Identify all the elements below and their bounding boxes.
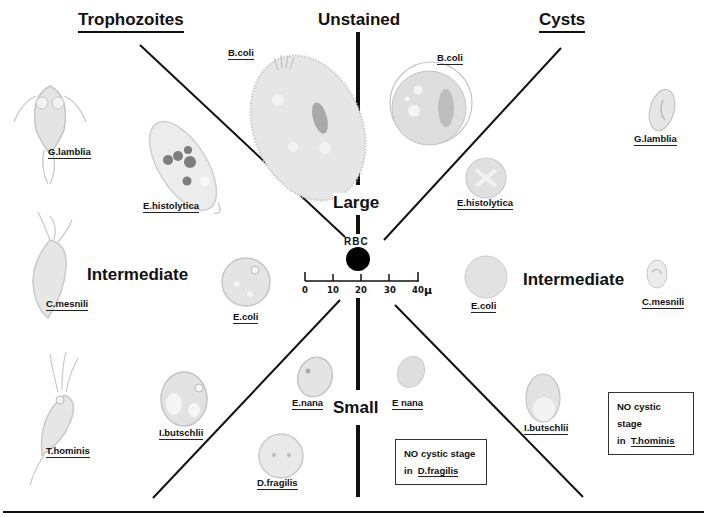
trophozoites-header: Trophozoites xyxy=(78,10,184,33)
label-troph-t-hominis: T.hominis xyxy=(46,445,90,458)
divider-lines xyxy=(0,0,711,517)
note-d-fragilis-line1: NO cystic stage xyxy=(404,445,478,462)
scale-unit-micron: μ xyxy=(424,284,432,297)
scale-tick-40: 40 xyxy=(412,285,424,295)
label-troph-e-coli: E.coli xyxy=(233,311,258,324)
scale-tick-0: 0 xyxy=(302,285,308,295)
cysts-header: Cysts xyxy=(539,10,585,33)
scale-tick-20: 20 xyxy=(355,285,367,295)
intermediate-right-label: Intermediate xyxy=(523,270,624,290)
note-t-hominis-organism: T.hominis xyxy=(631,435,675,447)
t-hominis-trophozoite-illustration xyxy=(30,352,78,485)
label-cyst-i-butschlii: I.butschlii xyxy=(524,422,568,435)
e-histolytica-cyst-illustration xyxy=(466,158,506,198)
label-troph-d-fragilis: D.fragilis xyxy=(257,477,298,490)
label-cyst-e-histolytica: E.histolytica xyxy=(457,197,513,210)
label-cyst-c-mesnili: C.mesnili xyxy=(642,296,684,309)
d-fragilis-trophozoite-illustration xyxy=(259,434,303,478)
label-cyst-g-lamblia: G.lamblia xyxy=(634,133,677,146)
b-coli-cyst-illustration xyxy=(390,62,472,145)
large-section-label: Large xyxy=(333,193,379,213)
unstained-header: Unstained xyxy=(318,10,400,30)
scale-tick-10: 10 xyxy=(327,285,339,295)
note-t-hominis-line2: in T.hominis xyxy=(617,432,685,449)
g-lamblia-cyst-illustration xyxy=(645,87,679,134)
note-no-cyst-t-hominis: NO cystic stage in T.hominis xyxy=(608,392,694,455)
e-nana-cyst-illustration xyxy=(392,352,429,392)
note-d-fragilis-prefix: in xyxy=(404,465,412,476)
small-section-label: Small xyxy=(333,398,378,418)
label-cyst-e-coli: E.coli xyxy=(471,300,496,313)
label-troph-g-lamblia: G.lamblia xyxy=(48,146,91,159)
b-coli-trophozoite-illustration xyxy=(230,38,386,218)
scale-tick-30: 30 xyxy=(384,285,396,295)
label-troph-e-histolytica: E.histolytica xyxy=(143,200,199,213)
c-mesnili-cyst-illustration xyxy=(647,260,667,288)
e-coli-trophozoite-illustration xyxy=(222,258,270,306)
rbc-reference-circle xyxy=(346,247,370,271)
label-cyst-b-coli: B.coli xyxy=(437,52,463,65)
i-butschlii-cyst-illustration xyxy=(526,374,560,422)
note-d-fragilis-organism: D.fragilis xyxy=(418,465,459,477)
label-troph-e-nana: E.nana xyxy=(292,397,323,410)
label-cyst-e-nana: E nana xyxy=(392,397,423,410)
label-troph-c-mesnili: C.mesnili xyxy=(46,298,88,311)
note-t-hominis-line1: NO cystic stage xyxy=(617,398,685,432)
intermediate-left-label: Intermediate xyxy=(87,265,188,285)
note-d-fragilis-line2: in D.fragilis xyxy=(404,462,478,479)
label-troph-b-coli: B.coli xyxy=(228,47,254,60)
e-coli-cyst-illustration xyxy=(465,256,507,298)
note-no-cyst-d-fragilis: NO cystic stage in D.fragilis xyxy=(395,439,487,485)
e-nana-trophozoite-illustration xyxy=(292,352,338,401)
i-butschlii-trophozoite-illustration xyxy=(161,372,207,426)
rbc-label: RBC xyxy=(344,236,369,247)
note-t-hominis-prefix: in xyxy=(617,435,625,446)
label-troph-i-butschlii: I.butschlii xyxy=(159,427,203,440)
g-lamblia-trophozoite-illustration xyxy=(14,86,86,184)
